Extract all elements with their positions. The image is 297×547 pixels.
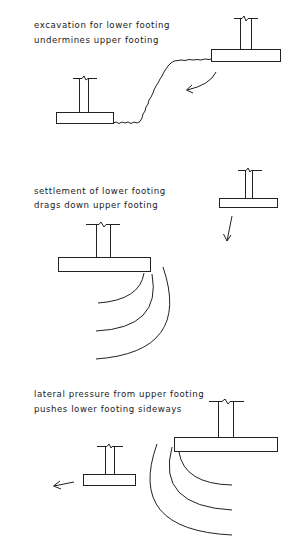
panel-1-excavation-slope: [113, 59, 211, 124]
panel-2-settlement: [59, 168, 278, 359]
panel-3-sideways-arrow: [54, 481, 75, 489]
panel-3-lateral-pressure: [54, 399, 278, 535]
panel-2-downward-arrow: [224, 216, 233, 241]
panel-2-lower-footing: [59, 222, 151, 272]
panel-3-pressure-arcs: [150, 444, 232, 535]
panel-1-lower-footing: [57, 76, 114, 124]
footing-interaction-diagram: excavation for lower footing undermines …: [0, 0, 297, 547]
panel-1-rotation-arrow: [187, 72, 217, 93]
panel-1-upper-footing: [212, 16, 281, 62]
panel-3-lower-footing: [84, 444, 136, 486]
diagram-drawing: [0, 0, 297, 547]
panel-1-excavation: [57, 16, 281, 124]
panel-3-upper-footing: [175, 399, 278, 452]
panel-2-upper-footing: [220, 168, 278, 208]
panel-2-settlement-arcs: [96, 267, 170, 359]
